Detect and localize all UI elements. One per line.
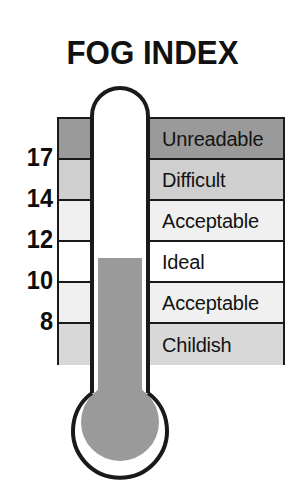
band-difficult: Difficult [59,160,283,201]
axis-label-8: 8 [3,309,53,334]
band-label-acceptable-lower: Acceptable [162,291,259,313]
axis-label-14: 14 [3,186,53,211]
band-label-ideal: Ideal [162,250,204,272]
fog-index-scale: Unreadable Difficult Acceptable Ideal Ac… [57,117,285,365]
band-label-difficult: Difficult [162,168,225,190]
axis-label-17: 17 [3,145,53,170]
band-acceptable-upper: Acceptable [59,201,283,242]
band-ideal: Ideal [59,242,283,283]
axis-label-12: 12 [3,227,53,252]
axis-label-10: 10 [3,268,53,293]
band-acceptable-lower: Acceptable [59,283,283,324]
page-title: FOG INDEX [12,33,293,71]
axis-number-column: 17 14 12 10 8 [0,117,53,367]
band-label-unreadable: Unreadable [162,127,263,149]
band-label-childish: Childish [162,333,232,355]
band-label-acceptable-upper: Acceptable [162,209,259,231]
fog-index-figure: FOG INDEX 17 14 12 10 8 Unreadable Diffi… [0,0,305,487]
band-childish: Childish [59,324,283,365]
band-unreadable: Unreadable [59,119,283,160]
